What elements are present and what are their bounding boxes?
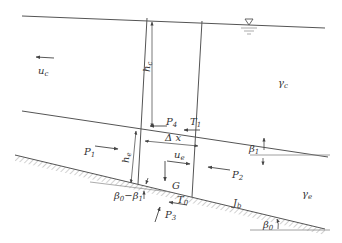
- label-t1: T1: [190, 117, 201, 129]
- beta0-beta1-angle-arrow-top: [146, 178, 148, 184]
- label-t0: T0: [177, 195, 188, 207]
- label-p1: P1: [84, 147, 95, 159]
- label-p4: P4: [166, 117, 177, 129]
- label-uc: uc: [38, 66, 48, 78]
- label-gamma-c: γc: [278, 78, 288, 90]
- label-p3: P3: [165, 210, 176, 222]
- p2-arrow: [208, 167, 230, 170]
- water-surface-line: [22, 16, 325, 28]
- label-beta1: β1: [249, 144, 259, 156]
- label-p2: P2: [232, 170, 243, 182]
- p1-arrow: [95, 146, 118, 149]
- label-dx: Δ x: [165, 133, 181, 143]
- label-g: G: [172, 181, 180, 191]
- cv-right-wall: [192, 21, 202, 197]
- cv-left-wall: [138, 18, 147, 184]
- p3-arrow: [155, 207, 160, 222]
- label-gamma-e: γe: [302, 189, 312, 201]
- water-surface-icon: [241, 19, 257, 34]
- uc-arrow: [36, 57, 54, 58]
- label-ue: ue: [174, 150, 185, 162]
- label-beta0: β0: [263, 220, 273, 232]
- label-he: he: [121, 152, 133, 163]
- label-hc: hc: [142, 62, 154, 72]
- label-beta0-minus-beta1: β0−β1: [114, 191, 143, 203]
- label-jb: Jb: [233, 198, 242, 210]
